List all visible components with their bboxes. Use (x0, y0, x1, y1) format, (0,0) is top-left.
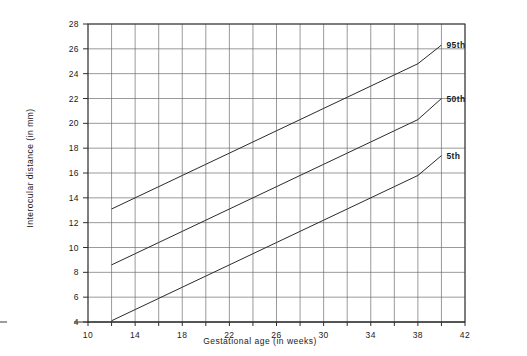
interocular-distance-nomogram: 46810121416182022242628 1014182226303438… (0, 0, 527, 356)
y-tick-label: 8 (74, 267, 79, 277)
series-label-5th: 5th (446, 151, 460, 161)
series-label-50th: 50th (446, 94, 465, 104)
x-tick-label: 10 (83, 330, 93, 340)
y-tick-label: 10 (69, 243, 79, 253)
y-tick-label: 24 (69, 69, 79, 79)
x-tick-label: 30 (318, 330, 328, 340)
y-tick-label: 28 (69, 19, 79, 29)
y-tick-label: 6 (74, 292, 79, 302)
y-tick-label: 26 (69, 44, 79, 54)
series-labels: 95th50th5th (446, 40, 465, 161)
y-axis-tick-labels: 46810121416182022242628 (69, 19, 79, 327)
axis-ticks (83, 24, 465, 326)
x-tick-label: 14 (130, 330, 140, 340)
y-tick-label: 12 (69, 218, 79, 228)
y-tick-label: 14 (69, 193, 79, 203)
y-tick-label: 4 (74, 317, 79, 327)
x-axis-title: Gestational age (in weeks) (203, 336, 317, 346)
y-axis-title: Interocular distance (in mm) (25, 108, 35, 227)
series-label-95th: 95th (446, 40, 465, 50)
y-tick-label: 18 (69, 143, 79, 153)
y-tick-label: 16 (69, 168, 79, 178)
x-tick-label: 18 (177, 330, 187, 340)
x-tick-label: 34 (366, 330, 376, 340)
y-tick-label: 22 (69, 94, 79, 104)
y-tick-label: 20 (69, 118, 79, 128)
x-tick-label: 42 (460, 330, 470, 340)
x-tick-label: 38 (413, 330, 423, 340)
chart-figure: 46810121416182022242628 1014182226303438… (0, 0, 527, 356)
